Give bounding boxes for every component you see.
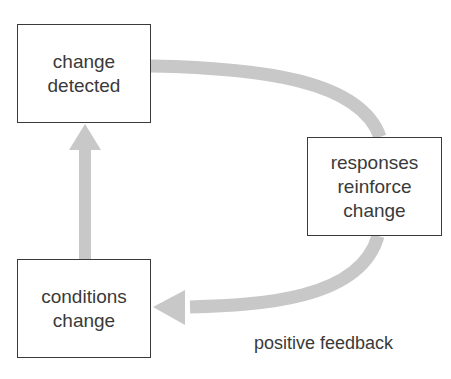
node-label-line: responses [331,151,419,175]
arrow-responses-to-conditions [190,236,378,307]
node-label-line: detected [48,74,121,98]
node-label-line: conditions [41,285,127,309]
arrowhead-left-icon [153,290,185,325]
feedback-diagram: change detected responses reinforce chan… [0,0,451,379]
node-label-line: reinforce [338,175,412,199]
node-label-line: change [53,309,115,333]
arrow-detected-to-responses [151,66,380,137]
diagram-caption: positive feedback [254,333,393,354]
node-label-line: change [53,50,115,74]
node-label-line: change [343,199,405,223]
node-conditions-change: conditions change [17,259,151,358]
node-responses-reinforce-change: responses reinforce change [307,137,442,236]
node-change-detected: change detected [17,24,151,123]
arrow-conditions-to-detected [79,145,91,259]
arrowhead-up-icon [69,124,101,150]
